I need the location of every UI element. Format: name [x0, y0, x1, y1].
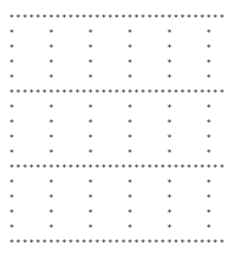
- asterisk-grid-art: ********************************* * * * …: [9, 11, 226, 251]
- ascii-art-canvas: ********************************* * * * …: [0, 0, 240, 275]
